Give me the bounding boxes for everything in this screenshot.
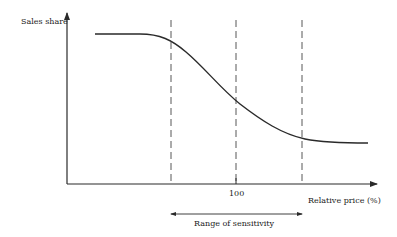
y-axis-label: Sales share bbox=[21, 17, 68, 26]
range-of-sensitivity-label: Range of sensitivity bbox=[194, 219, 274, 228]
x-axis-label: Relative price (%) bbox=[308, 196, 381, 205]
sales-share-curve bbox=[95, 34, 368, 143]
x-tick-label-100: 100 bbox=[229, 189, 244, 198]
